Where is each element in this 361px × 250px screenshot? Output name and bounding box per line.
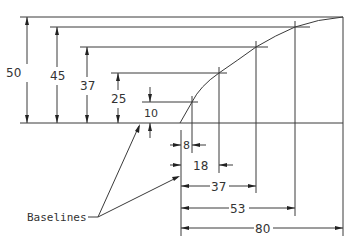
- dim-vertical-50: [25, 17, 29, 123]
- dim-label-h-37: 37: [211, 180, 226, 194]
- dim-label-h-53: 53: [230, 202, 245, 216]
- dim-label-10: 10: [144, 107, 158, 120]
- dim-label-h-80: 80: [255, 222, 270, 236]
- baselines-leader: [88, 124, 180, 217]
- technical-drawing: 50 45 37 25 10 8 18 37 53 80: [0, 0, 361, 250]
- dim-label-h-18: 18: [193, 159, 208, 173]
- dim-label-45: 45: [50, 69, 65, 83]
- dim-label-50: 50: [6, 66, 21, 80]
- dim-label-25: 25: [111, 92, 126, 106]
- profile-curve: [180, 17, 343, 123]
- baselines-label: Baselines: [27, 211, 87, 224]
- dim-label-37: 37: [80, 79, 95, 93]
- dim-label-h-8: 8: [183, 139, 190, 152]
